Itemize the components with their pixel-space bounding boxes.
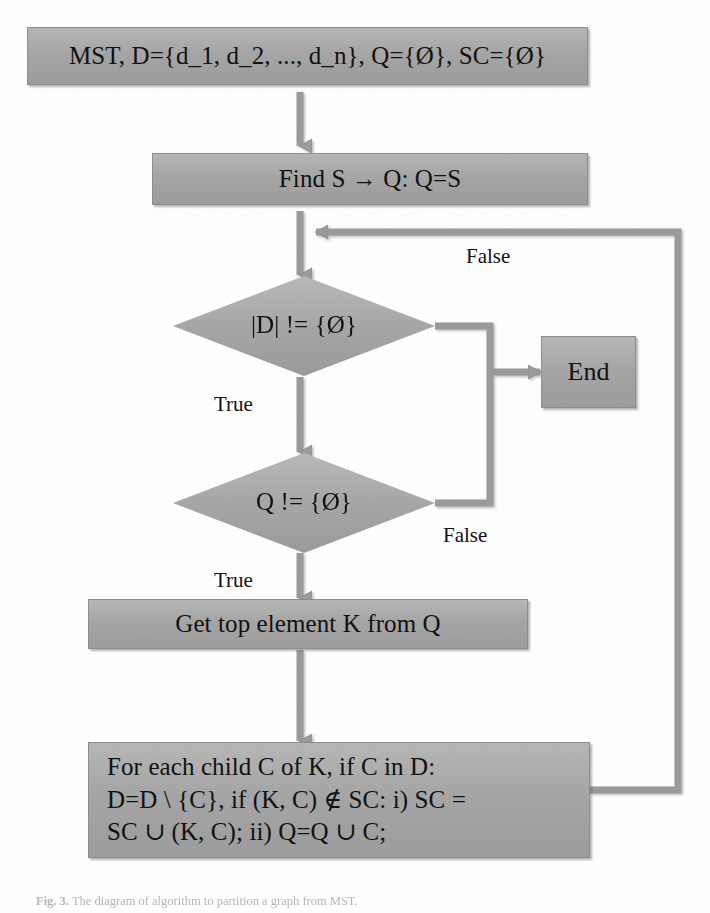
node-get-top[interactable]: Get top element K from Q bbox=[88, 599, 528, 649]
node-end-label: End bbox=[557, 355, 619, 389]
node-for-each-label: For each child C of K, if C in D: D=D \ … bbox=[89, 751, 476, 849]
edge-label-decisionq-false: False bbox=[443, 523, 487, 548]
node-decision-q[interactable]: Q != {Ø} bbox=[173, 453, 435, 553]
edge-label-decisiond-true: True bbox=[214, 392, 253, 417]
edge-label-decisiond-false: False bbox=[466, 244, 510, 269]
node-decision-q-label: Q != {Ø} bbox=[256, 488, 352, 516]
figure-caption: Fig. 3. The diagram of algorithm to part… bbox=[36, 893, 676, 910]
flowchart-canvas: MST, D={d_1, d_2, ..., d_n}, Q={Ø}, SC={… bbox=[0, 0, 710, 913]
node-find-s-label: Find S → Q: Q=S bbox=[269, 163, 471, 196]
node-decision-d[interactable]: |D| != {Ø} bbox=[173, 276, 435, 376]
node-end[interactable]: End bbox=[541, 336, 636, 408]
node-get-top-label: Get top element K from Q bbox=[165, 608, 451, 641]
node-start-label: MST, D={d_1, d_2, ..., d_n}, Q={Ø}, SC={… bbox=[59, 40, 556, 73]
figure-caption-prefix: Fig. 3. bbox=[36, 894, 69, 908]
node-decision-d-label: |D| != {Ø} bbox=[251, 311, 357, 339]
node-find-s[interactable]: Find S → Q: Q=S bbox=[152, 153, 588, 205]
edge-decisiond-false bbox=[435, 326, 490, 372]
edge-label-decisionq-true: True bbox=[214, 568, 253, 593]
node-start[interactable]: MST, D={d_1, d_2, ..., d_n}, Q={Ø}, SC={… bbox=[27, 27, 588, 85]
edge-decisionq-false bbox=[435, 372, 490, 503]
node-for-each[interactable]: For each child C of K, if C in D: D=D \ … bbox=[88, 742, 590, 858]
figure-caption-text: The diagram of algorithm to partition a … bbox=[72, 894, 358, 908]
